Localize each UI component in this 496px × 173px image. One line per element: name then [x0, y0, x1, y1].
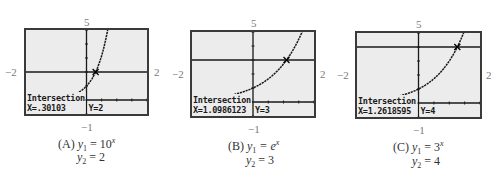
intersection-y-value: Y=2	[89, 103, 104, 113]
caption-a-line2: y2 = 2	[77, 150, 105, 169]
graph-plot: IntersectionX=1.0986123Y=3	[192, 32, 314, 116]
intersection-title: Intersection	[27, 93, 85, 103]
graph-plot: IntersectionX=.30103Y=2	[26, 30, 147, 114]
intersection-title: Intersection	[358, 96, 416, 106]
xmin-label: −2	[337, 70, 349, 81]
xmax-label: 2	[154, 67, 160, 78]
intersection-y-value: Y=3	[255, 105, 270, 115]
xmin-label: −2	[172, 69, 184, 80]
calculator-screen-b: IntersectionX=1.0986123Y=3	[190, 30, 316, 118]
intersection-title: Intersection	[193, 95, 251, 105]
intersection-y-value: Y=4	[421, 106, 436, 116]
ymax-label: 5	[416, 19, 422, 30]
ymax-label: 5	[84, 17, 90, 28]
graph-plot: IntersectionX=1.2618595Y=4	[357, 33, 480, 117]
ymin-label: −1	[248, 124, 260, 135]
xmax-label: 2	[320, 69, 326, 80]
xmin-label: −2	[5, 67, 17, 78]
intersection-x-value: X=1.0986123	[193, 105, 246, 115]
intersection-x-value: X=1.2618595	[358, 106, 411, 116]
ymin-label: −1	[413, 125, 425, 136]
ymax-label: 5	[251, 18, 257, 29]
caption-c-line2: y2 = 4	[412, 154, 440, 173]
calculator-screen-a: IntersectionX=.30103Y=2	[24, 28, 149, 116]
ymin-label: −1	[81, 122, 93, 133]
caption-b-line2: y2 = 3	[246, 153, 274, 172]
xmax-label: 2	[486, 70, 492, 81]
y1-curve	[50, 30, 108, 99]
y1-curve	[216, 32, 303, 98]
intersection-x-value: X=.30103	[27, 103, 66, 113]
calculator-screen-c: IntersectionX=1.2618595Y=4	[355, 31, 482, 119]
y1-curve	[382, 33, 465, 99]
